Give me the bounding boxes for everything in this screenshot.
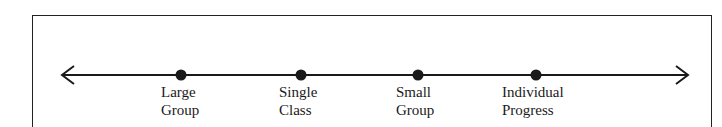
- label-line: Large: [161, 83, 199, 101]
- label-individual-progress: Individual Progress: [502, 83, 564, 119]
- label-line: Group: [161, 101, 199, 119]
- label-small-group: Small Group: [396, 83, 434, 119]
- label-line: Progress: [502, 101, 564, 119]
- label-large-group: Large Group: [161, 83, 199, 119]
- label-line: Small: [396, 83, 434, 101]
- point-dot-single-class: [296, 70, 307, 81]
- continuum-axis: [0, 0, 722, 127]
- label-line: Group: [396, 101, 434, 119]
- point-dot-small-group: [413, 70, 424, 81]
- point-dot-large-group: [176, 70, 187, 81]
- label-line: Class: [279, 101, 317, 119]
- label-line: Single: [279, 83, 317, 101]
- label-line: Individual: [502, 83, 564, 101]
- label-single-class: Single Class: [279, 83, 317, 119]
- point-dot-individual-progress: [531, 70, 542, 81]
